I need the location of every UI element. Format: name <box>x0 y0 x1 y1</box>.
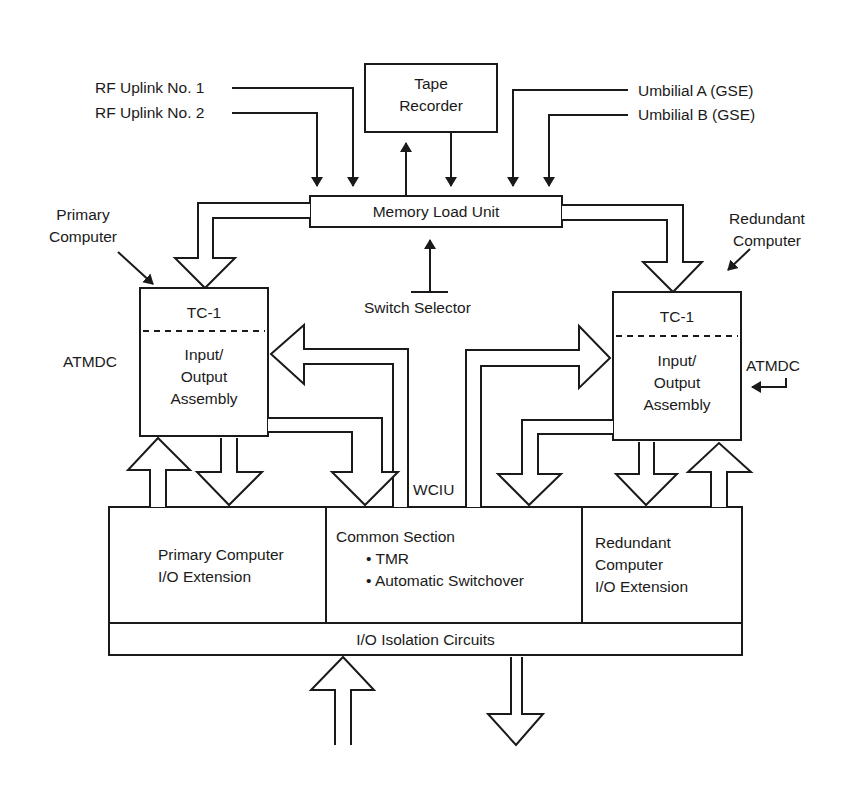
common-bullet-tmr: • TMR <box>336 550 524 568</box>
primary-computer-label: Primary Computer <box>38 206 128 246</box>
bullet-text: Automatic Switchover <box>375 572 524 589</box>
memory-load-unit-label: Memory Load Unit <box>310 203 562 221</box>
primary-label-line2: Computer <box>38 228 128 246</box>
primary-io-assembly: Input/ Output Assembly <box>140 346 268 408</box>
bullet-text: TMR <box>375 550 409 567</box>
redundant-ext-line1: Redundant <box>595 534 688 552</box>
redundant-label-line2: Computer <box>712 232 822 250</box>
redundant-io-extension: Redundant Computer I/O Extension <box>595 534 688 596</box>
umbilical-b-label: Umbilial B (GSE) <box>638 106 755 124</box>
tape-recorder-line1: Tape <box>365 75 497 93</box>
primary-tc1-label: TC-1 <box>140 304 268 322</box>
redundant-tc1-label: TC-1 <box>613 308 741 326</box>
wciu-label: WCIU <box>413 481 454 499</box>
primary-ext-line1: Primary Computer <box>158 546 284 564</box>
primary-io-extension: Primary Computer I/O Extension <box>158 546 284 586</box>
redundant-computer-label: Redundant Computer <box>712 210 822 250</box>
common-section: Common Section • TMR • Automatic Switcho… <box>336 528 524 590</box>
tape-recorder-line2: Recorder <box>365 97 497 115</box>
common-section-title: Common Section <box>336 528 524 546</box>
isolation-circuits-label: I/O Isolation Circuits <box>109 631 742 649</box>
umbilical-a-label: Umbilial A (GSE) <box>638 82 753 100</box>
rf-uplink-2-label: RF Uplink No. 2 <box>95 104 204 122</box>
common-bullet-switchover: • Automatic Switchover <box>336 572 524 590</box>
rf-uplink-1-label: RF Uplink No. 1 <box>95 79 204 97</box>
redundant-io-line2: Output <box>613 374 741 392</box>
redundant-ext-line3: I/O Extension <box>595 578 688 596</box>
redundant-io-line1: Input/ <box>613 352 741 370</box>
primary-io-line2: Output <box>140 368 268 386</box>
redundant-io-line3: Assembly <box>613 396 741 414</box>
redundant-io-assembly: Input/ Output Assembly <box>613 352 741 414</box>
redundant-label-line1: Redundant <box>712 210 822 228</box>
primary-io-line1: Input/ <box>140 346 268 364</box>
primary-atmdc-label: ATMDC <box>63 353 117 371</box>
primary-ext-line2: I/O Extension <box>158 568 284 586</box>
redundant-ext-line2: Computer <box>595 556 688 574</box>
redundant-atmdc-label: ATMDC <box>746 357 800 375</box>
primary-label-line1: Primary <box>38 206 128 224</box>
tape-recorder: Tape Recorder <box>365 75 497 115</box>
primary-io-line3: Assembly <box>140 390 268 408</box>
switch-selector-label: Switch Selector <box>364 299 471 317</box>
